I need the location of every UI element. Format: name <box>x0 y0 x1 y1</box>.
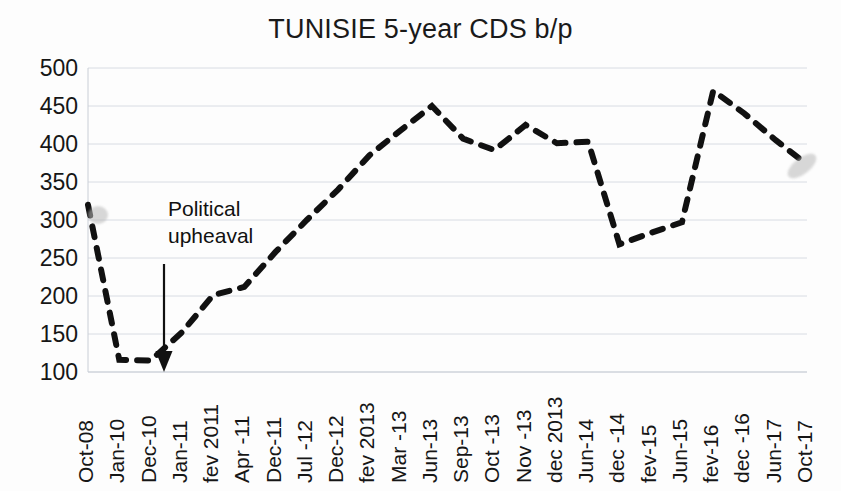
x-axis-tick-label: Jan-10 <box>106 419 127 483</box>
x-axis-tick-label: Jun-17 <box>763 419 784 483</box>
x-axis-tick-label: fev-16 <box>700 425 721 483</box>
x-axis-tick-label: Dec-12 <box>325 415 346 483</box>
x-axis-tick-label: Dec-11 <box>263 417 284 483</box>
x-axis-tick-label: Jun-13 <box>419 419 440 483</box>
x-axis-tick-label: Dec-10 <box>138 415 159 483</box>
x-axis-tick-label: Sep-13 <box>450 415 471 483</box>
x-axis-tick-label: fev 2013 <box>356 402 377 483</box>
x-axis-tick-label: fev-15 <box>638 425 659 483</box>
x-axis-tick-label: Jul -12 <box>294 420 315 483</box>
x-axis-tick-label: Jun-15 <box>669 419 690 483</box>
x-axis-tick-label: fev 2011 <box>200 404 221 483</box>
x-axis-tick-label: Oct -13 <box>481 414 502 483</box>
x-axis-tick-label: dec 2013 <box>544 397 565 483</box>
x-axis-tick-label: dec -14 <box>606 413 627 483</box>
annotation-line-2: upheaval <box>168 223 253 250</box>
annotation-line-1: Political <box>168 196 253 223</box>
x-axis-tick-label: Nov -13 <box>513 409 534 483</box>
x-axis-labels: Oct-08Jan-10Dec-10Jan-11fev 2011Apr -11D… <box>0 0 841 491</box>
chart-container: TUNISIE 5-year CDS b/p 50045040035030025… <box>0 0 841 491</box>
x-axis-tick-label: Jun-14 <box>575 419 596 483</box>
x-axis-tick-label: Oct-17 <box>794 420 815 483</box>
x-axis-tick-label: Mar -13 <box>388 411 409 483</box>
x-axis-tick-label: Apr -11 <box>231 416 252 483</box>
x-axis-tick-label: Jan-11 <box>169 420 190 483</box>
x-axis-tick-label: dec -16 <box>731 413 752 483</box>
annotation-political-upheaval: Political upheaval <box>168 196 253 250</box>
x-axis-tick-label: Oct-08 <box>75 420 96 483</box>
